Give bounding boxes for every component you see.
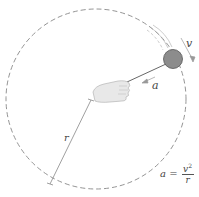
radius-label: r bbox=[64, 133, 69, 143]
radius-line bbox=[50, 100, 91, 184]
ball bbox=[164, 50, 183, 69]
formula-exponent: 2 bbox=[188, 162, 192, 169]
formula-lhs: a = bbox=[160, 168, 178, 179]
centripetal-formula: a = v2 r bbox=[160, 161, 194, 185]
formula-denominator: r bbox=[185, 175, 189, 185]
hand-icon bbox=[93, 81, 130, 103]
velocity-label: v bbox=[186, 38, 192, 49]
motion-lines bbox=[147, 25, 172, 50]
acceleration-label: a bbox=[152, 80, 159, 91]
